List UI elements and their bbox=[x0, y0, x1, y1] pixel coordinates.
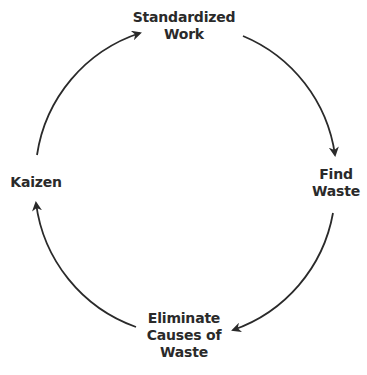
node-standardized-work: Standardized Work bbox=[133, 9, 236, 43]
node-find-waste: Find Waste bbox=[312, 166, 360, 200]
node-label-line: Waste bbox=[312, 183, 360, 200]
node-label-line: Causes of bbox=[147, 327, 222, 344]
arrow-kaizen-to-standardized bbox=[37, 33, 140, 155]
node-kaizen: Kaizen bbox=[10, 174, 62, 191]
node-label-line: Standardized bbox=[133, 9, 236, 26]
node-label-line: Eliminate bbox=[147, 310, 222, 327]
cycle-diagram: Standardized Work Find Waste Eliminate C… bbox=[0, 0, 367, 375]
arrow-find-to-eliminate bbox=[233, 213, 333, 330]
node-label-line: Waste bbox=[147, 344, 222, 361]
node-label-line: Kaizen bbox=[10, 174, 62, 191]
arrow-standardized-to-find bbox=[243, 36, 335, 155]
arrow-eliminate-to-kaizen bbox=[36, 203, 136, 327]
node-label-line: Find bbox=[312, 166, 360, 183]
node-label-line: Work bbox=[133, 26, 236, 43]
node-eliminate-causes: Eliminate Causes of Waste bbox=[147, 310, 222, 361]
